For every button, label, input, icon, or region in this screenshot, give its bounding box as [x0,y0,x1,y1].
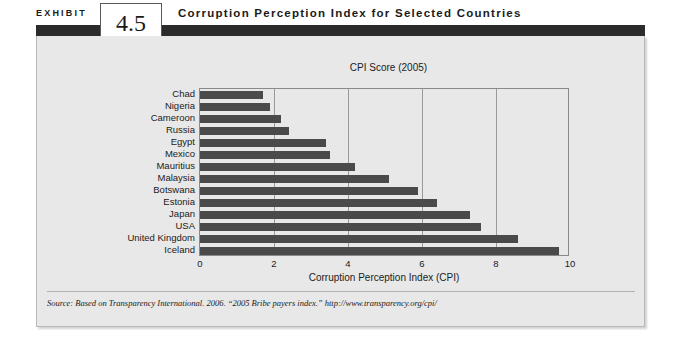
chart-plot-area: 0246810ChadNigeriaCameroonRussiaEgyptMex… [199,88,569,256]
bar [200,151,330,159]
x-axis-title: Corruption Perception Index (CPI) [199,272,569,283]
bar-row: Malaysia [200,173,570,185]
category-label: Nigeria [165,100,200,112]
bar-row: Botswana [200,185,570,197]
category-label: Japan [169,208,200,220]
category-label: Mexico [165,148,200,160]
chart-plot-wrapper: 0246810ChadNigeriaCameroonRussiaEgyptMex… [37,36,646,327]
category-label: United Kingdom [127,232,200,244]
bar [200,211,470,219]
category-label: Cameroon [151,112,200,124]
bar-row: Mauritius [200,161,570,173]
category-label: Malaysia [158,172,201,184]
bar [200,235,518,243]
bar-row: Iceland [200,245,570,257]
bar-row: Cameroon [200,113,570,125]
bar [200,91,263,99]
exhibit-number: 4.5 [116,11,146,37]
source-divider [47,291,635,292]
bar [200,127,289,135]
bar [200,247,559,255]
bar-row: Egypt [200,137,570,149]
bar-row: Mexico [200,149,570,161]
x-tick-label-10: 10 [565,258,576,270]
x-tick-label-0: 0 [197,258,202,270]
x-tick-label-8: 8 [493,258,498,270]
category-label: Mauritius [156,160,200,172]
category-label: USA [175,220,200,232]
x-tick-label-6: 6 [419,258,424,270]
bar-row: Chad [200,89,570,101]
category-label: Chad [172,88,200,100]
bar-row: Estonia [200,197,570,209]
figure-panel: CPI Score (2005) 0246810ChadNigeriaCamer… [36,36,645,327]
bar [200,223,481,231]
bar [200,175,389,183]
bar [200,139,326,147]
bar [200,115,281,123]
x-tick-label-4: 4 [345,258,350,270]
bar [200,163,355,171]
exhibit-title: Corruption Perception Index for Selected… [178,7,522,19]
bar-row: Nigeria [200,101,570,113]
bar-row: USA [200,221,570,233]
category-label: Iceland [164,244,200,256]
x-tick-label-2: 2 [271,258,276,270]
category-label: Russia [166,124,200,136]
category-label: Botswana [153,184,200,196]
category-label: Estonia [163,196,200,208]
bar [200,187,418,195]
bar-row: United Kingdom [200,233,570,245]
source-note: Source: Based on Transparency Internatio… [47,298,637,308]
bar-row: Japan [200,209,570,221]
bar [200,199,437,207]
exhibit-label: EXHIBIT [36,8,87,18]
bar [200,103,270,111]
category-label: Egypt [171,136,200,148]
bar-row: Russia [200,125,570,137]
